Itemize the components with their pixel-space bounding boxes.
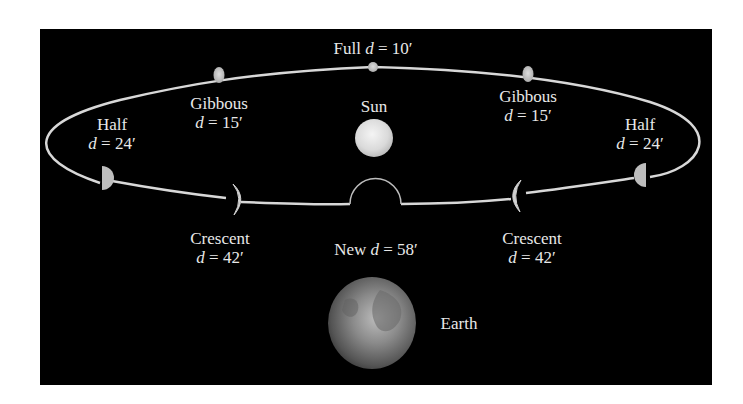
phase-name: Gibbous (499, 87, 557, 106)
orbit-path-lower-right (526, 178, 634, 193)
distance-value: = 42′ (205, 248, 244, 267)
distance-var: d (196, 248, 205, 267)
label-gibbous-left: Gibbous d = 15′ (190, 94, 248, 132)
label-half-right: Half d = 24′ (616, 115, 663, 153)
distance-var: d (195, 113, 204, 132)
moon-gibbous-right-icon (523, 66, 534, 82)
earth-icon (328, 277, 416, 369)
label-gibbous-right: Gibbous d = 15′ (499, 87, 557, 125)
label-full: Full d = 10′ (334, 39, 413, 58)
label-sun: Sun (361, 97, 387, 116)
distance-value: = 24′ (625, 134, 664, 153)
phase-name: Full (334, 39, 361, 58)
moon-crescent-right-icon (513, 180, 521, 212)
orbit-path-lower-mid-left (241, 202, 350, 204)
label-crescent-right: Crescent d = 42′ (502, 229, 561, 267)
distance-value: = 15′ (513, 106, 552, 125)
moon-new-icon (350, 179, 401, 205)
label-earth: Earth (441, 314, 478, 333)
phase-name: Gibbous (190, 94, 248, 113)
phase-name: Crescent (190, 229, 249, 248)
label-half-left: Half d = 24′ (88, 115, 135, 153)
distance-value: = 10′ (374, 39, 413, 58)
label-crescent-left: Crescent d = 42′ (190, 229, 249, 267)
moon-full-icon (368, 62, 378, 72)
distance-var: d (504, 106, 513, 125)
distance-var: d (371, 240, 380, 259)
moon-half-left-icon (102, 166, 114, 190)
distance-value: = 24′ (97, 134, 136, 153)
moon-half-right-icon (634, 163, 646, 187)
moon-orbit-diagram (0, 0, 743, 404)
phase-name: Half (88, 115, 135, 134)
sun-label: Sun (361, 97, 387, 116)
distance-value: = 42′ (517, 248, 556, 267)
phase-name: Crescent (502, 229, 561, 248)
orbit-path-lower-left (112, 181, 226, 198)
distance-var: d (616, 134, 625, 153)
distance-var: d (88, 134, 97, 153)
sun-icon (355, 119, 393, 157)
distance-value: = 58′ (379, 240, 418, 259)
phase-name: New (334, 240, 366, 259)
moon-gibbous-left-icon (214, 67, 225, 83)
earth-label: Earth (441, 314, 478, 333)
phase-name: Half (616, 115, 663, 134)
orbit-path-lower-mid-right (401, 199, 511, 204)
distance-value: = 15′ (204, 113, 243, 132)
distance-var: d (508, 248, 517, 267)
label-new: New d = 58′ (334, 240, 418, 259)
distance-var: d (365, 39, 374, 58)
moon-crescent-left-icon (233, 184, 241, 215)
